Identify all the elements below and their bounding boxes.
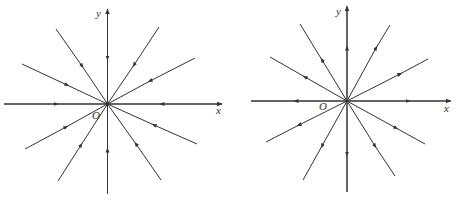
- diagram-canvas: O x y O x y: [0, 0, 456, 200]
- left-figure: [4, 9, 222, 194]
- left-y-label: y: [95, 7, 101, 19]
- right-origin-label: O: [319, 100, 327, 112]
- right-y-label: y: [335, 5, 341, 17]
- right-x-label: x: [443, 102, 449, 114]
- left-origin-label: O: [92, 109, 100, 121]
- right-figure: [251, 6, 451, 192]
- left-x-label: x: [215, 104, 221, 116]
